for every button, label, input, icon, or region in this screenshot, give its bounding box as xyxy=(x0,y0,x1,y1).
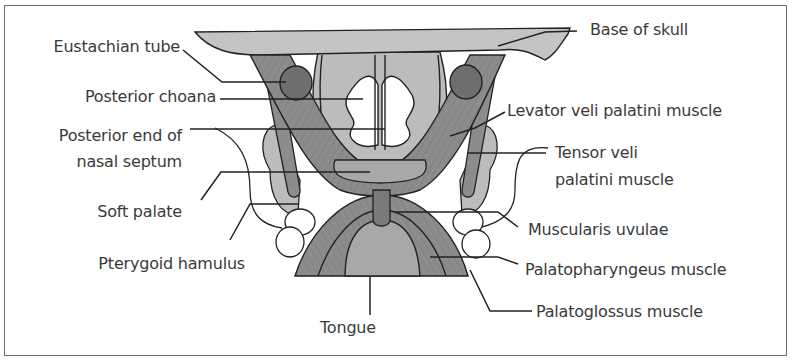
label-base-of-skull: Base of skull xyxy=(590,20,688,40)
label-tongue: Tongue xyxy=(320,318,376,338)
label-posterior-end-nasal-septum-line2: nasal septum xyxy=(20,152,182,172)
label-tensor-veli-palatini-line1: Tensor veli xyxy=(555,143,638,163)
label-tensor-veli-palatini-line2: palatini muscle xyxy=(555,170,674,190)
label-posterior-end-nasal-septum-line1: Posterior end of xyxy=(20,126,182,146)
label-pterygoid-hamulus: Pterygoid hamulus xyxy=(20,254,245,274)
label-levator-veli-palatini: Levator veli palatini muscle xyxy=(507,101,722,121)
label-posterior-choana: Posterior choana xyxy=(20,87,216,107)
label-muscularis-uvulae: Muscularis uvulae xyxy=(528,220,668,240)
label-eustachian-tube: Eustachian tube xyxy=(20,37,180,57)
label-palatoglossus: Palatoglossus muscle xyxy=(536,302,703,322)
uvula-shape xyxy=(373,190,390,226)
label-palatopharyngeus: Palatopharyngeus muscle xyxy=(525,260,726,280)
label-soft-palate: Soft palate xyxy=(20,202,182,222)
